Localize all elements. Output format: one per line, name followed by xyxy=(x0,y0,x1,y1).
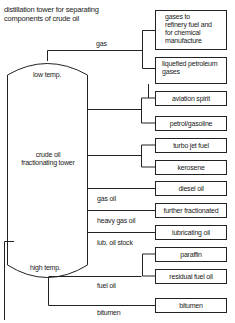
product-box-petrol: petrol/gasoline xyxy=(155,116,227,131)
fraction-lub-oil-stock: lub. oil stock xyxy=(97,239,133,247)
tower-center-label: crude oil fractionating tower xyxy=(10,151,86,167)
product-box-diesel-oil: diesel oil xyxy=(155,181,227,196)
tower-center-line-2: fractionating tower xyxy=(10,159,86,167)
product-box-lubricating-oil: lubricating oil xyxy=(155,225,227,240)
product-box-further-fractionated: further fractionated xyxy=(155,203,227,218)
tower-center-line-1: crude oil xyxy=(10,151,86,159)
product-line: liquefied petroleum xyxy=(162,60,226,68)
product-box-refinery-gases: gases to refinery fuel and for chemical … xyxy=(155,10,227,50)
tower-top-label: low temp. xyxy=(33,71,61,79)
tower-outline xyxy=(8,64,88,278)
title-line-2: components of crude oil xyxy=(4,14,99,23)
tower-bottom-label: high temp. xyxy=(30,264,61,272)
product-line: for chemical xyxy=(165,29,226,37)
distillation-diagram: distillation tower for separating compon… xyxy=(0,0,235,323)
product-line: manufacture xyxy=(165,37,226,45)
fraction-bitumen: bitumen xyxy=(97,309,121,317)
product-line: gases to xyxy=(165,13,226,21)
product-box-residual-fuel-oil: residual fuel oil xyxy=(155,269,227,284)
product-line: gases xyxy=(162,68,226,76)
product-box-lpg: liquefied petroleum gases xyxy=(155,57,227,84)
product-box-turbo-jet-fuel: turbo jet fuel xyxy=(155,138,227,153)
product-box-aviation-spirit: aviation spirit xyxy=(155,91,227,106)
product-box-paraffin: paraffin xyxy=(155,247,227,262)
title-line-1: distillation tower for separating xyxy=(4,5,99,14)
fraction-fuel-oil: fuel oil xyxy=(97,282,116,290)
fraction-heavy-gas-oil: heavy gas oil xyxy=(97,217,135,225)
product-box-kerosene: kerosene xyxy=(155,160,227,175)
product-box-bitumen: bitumen xyxy=(155,298,227,313)
diagram-title: distillation tower for separating compon… xyxy=(4,5,99,23)
fraction-gas: gas xyxy=(96,40,107,48)
fraction-gas-oil: gas oil xyxy=(97,195,116,203)
product-line: refinery fuel and xyxy=(165,21,226,29)
